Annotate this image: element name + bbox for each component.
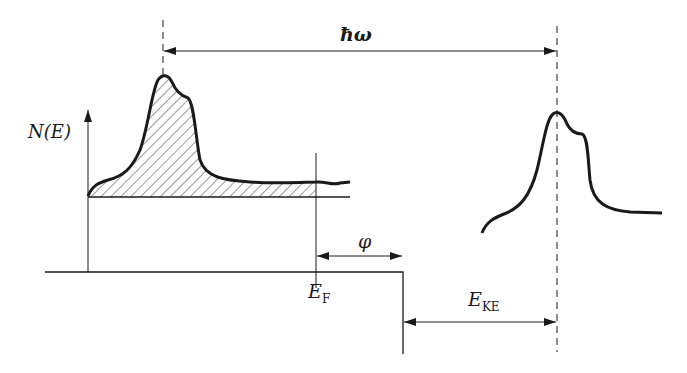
photoemission-diagram: ħω N(E) φ EF EKE <box>0 0 687 373</box>
vacuum-level-step <box>45 272 403 354</box>
work-function-label: φ <box>358 230 372 252</box>
photon-energy-label: ħω <box>340 23 372 45</box>
fermi-energy-label: EF <box>307 280 330 306</box>
kinetic-energy-label: EKE <box>467 288 500 314</box>
density-of-states-label: N(E) <box>27 121 71 142</box>
occupied-states-hatch <box>88 76 316 197</box>
photoemission-spectrum-curve <box>482 112 662 233</box>
